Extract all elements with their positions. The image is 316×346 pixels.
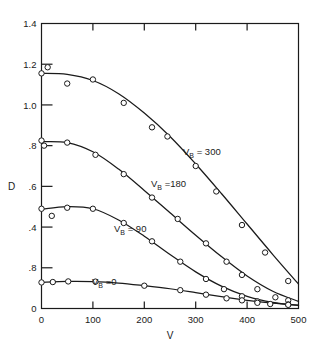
data-point [65, 81, 70, 86]
label-vb-0: VB =0 [92, 276, 117, 289]
data-point [45, 65, 50, 70]
x-tick-label: 0 [39, 314, 44, 325]
label-vb-180: VB =180 [151, 178, 186, 191]
data-point [221, 286, 226, 291]
data-point [65, 140, 70, 145]
y-tick-label: .6 [29, 181, 37, 192]
y-tick-labels: 1.41.21.0.8.6.4.80 [23, 18, 36, 314]
data-point [66, 279, 71, 284]
data-point [255, 300, 260, 305]
x-tick-label: 200 [136, 314, 152, 325]
data-point [262, 250, 267, 255]
data-point [178, 259, 183, 264]
y-tick-label: 1.2 [23, 59, 36, 70]
data-point [39, 280, 44, 285]
data-point [193, 163, 198, 168]
svg-text:VB =180: VB =180 [151, 178, 186, 191]
data-point [286, 302, 291, 307]
data-point [39, 138, 44, 143]
data-point [121, 100, 126, 105]
x-tick-labels: 0100200300400500 [39, 314, 307, 325]
data-point [93, 152, 98, 157]
data-point [39, 206, 44, 211]
y-tick-label: 1.0 [23, 100, 36, 111]
data-point [203, 276, 208, 281]
data-point [149, 125, 154, 130]
data-point [49, 213, 54, 218]
data-point [41, 143, 46, 148]
data-point [175, 216, 180, 221]
data-point [239, 298, 244, 303]
curve-annotations: VB = 300VB =180VB = 90VB =0 [92, 146, 221, 289]
data-point [203, 292, 208, 297]
data-point [121, 171, 126, 176]
y-tick-label: .8 [29, 140, 37, 151]
data-point [273, 295, 278, 300]
data-point [142, 283, 147, 288]
x-tick-label: 300 [188, 314, 204, 325]
data-point [50, 279, 55, 284]
figure-panel: 1.41.21.0.8.6.4.800100200300400500DVVB =… [0, 0, 316, 346]
tick-marks [42, 24, 248, 309]
data-point [90, 206, 95, 211]
y-tick-label: 0 [31, 303, 36, 314]
svg-text:VB =0: VB =0 [92, 276, 117, 289]
data-point [178, 287, 183, 292]
data-point [90, 77, 95, 82]
data-point [39, 71, 44, 76]
series-curve-1 [42, 142, 299, 302]
data-point [214, 189, 219, 194]
data-point [268, 301, 273, 306]
fit-curves [42, 73, 299, 305]
data-point [149, 239, 154, 244]
y-axis-title: D [8, 181, 15, 192]
data-point [224, 296, 229, 301]
x-tick-label: 400 [239, 314, 255, 325]
data-point [203, 241, 208, 246]
data-point [165, 134, 170, 139]
scatter-plot: 1.41.21.0.8.6.4.800100200300400500DVVB =… [0, 0, 316, 346]
x-tick-label: 100 [85, 314, 101, 325]
svg-text:VB = 90: VB = 90 [114, 223, 146, 236]
svg-text:VB = 300: VB = 300 [183, 146, 221, 159]
label-vb-90: VB = 90 [114, 223, 146, 236]
axis-frame [42, 24, 299, 309]
data-point [239, 272, 244, 277]
x-tick-label: 500 [291, 314, 307, 325]
data-point [239, 222, 244, 227]
data-point [255, 286, 260, 291]
y-tick-label: 1.4 [23, 18, 36, 29]
x-axis-title: V [167, 330, 174, 341]
plot-border [42, 24, 299, 309]
y-tick-label: .4 [29, 222, 37, 233]
data-point [65, 205, 70, 210]
data-point [224, 259, 229, 264]
y-tick-label: .8 [29, 262, 37, 273]
data-point [286, 278, 291, 283]
data-point [149, 195, 154, 200]
label-vb-300: VB = 300 [183, 146, 221, 159]
